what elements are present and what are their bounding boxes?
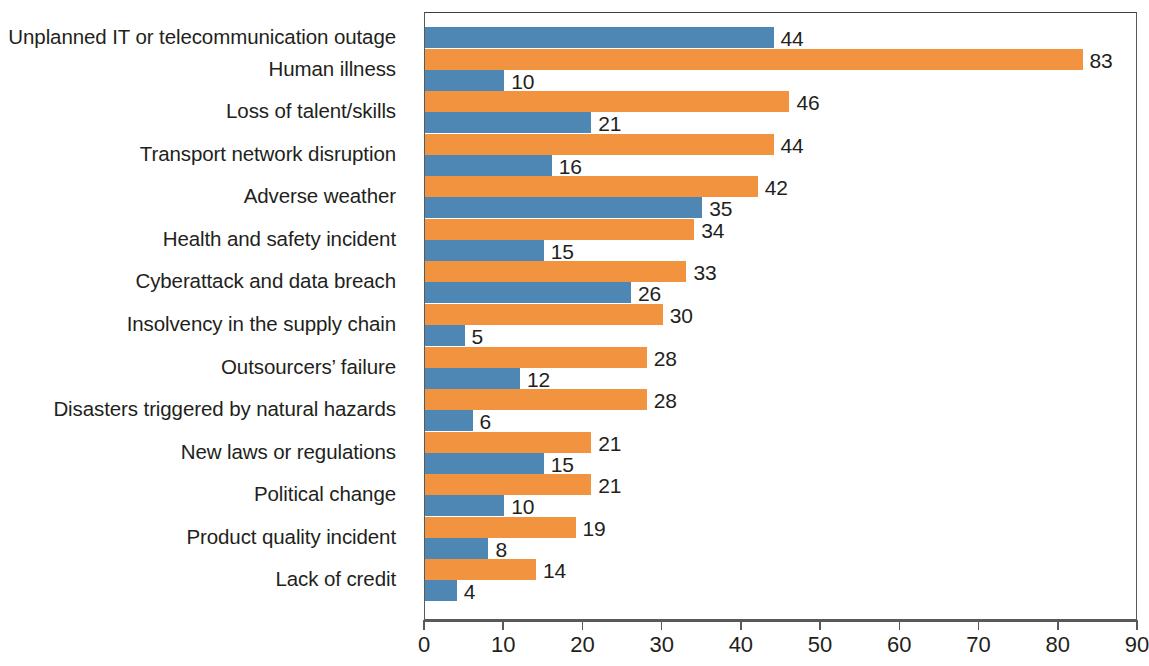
bar-value-label: 4 [464, 581, 475, 602]
category-label: Human illness [0, 59, 396, 80]
x-axis-tick [423, 620, 425, 630]
category-label: Adverse weather [0, 186, 396, 207]
bar-blue [425, 112, 591, 133]
bar-orange [425, 517, 576, 538]
x-axis-tick-label: 50 [808, 634, 832, 656]
x-axis-tick-label: 40 [729, 634, 753, 656]
category-label: Health and safety incident [0, 229, 396, 250]
x-axis-tick [978, 620, 980, 630]
category-label: Transport network disruption [0, 144, 396, 165]
x-axis-line [424, 620, 1137, 622]
category-label: Disasters triggered by natural hazards [0, 399, 396, 420]
category-label: Loss of talent/skills [0, 101, 396, 122]
bar-orange [425, 474, 591, 495]
bar-value-label: 14 [543, 560, 566, 581]
bar-value-label: 21 [598, 113, 621, 134]
bar-blue [425, 282, 631, 303]
bar-blue [425, 325, 465, 346]
bar-value-label: 83 [1090, 50, 1113, 71]
x-axis-tick [819, 620, 821, 630]
bar-value-label: 46 [796, 92, 819, 113]
bar-value-label: 8 [495, 539, 506, 560]
bar-blue [425, 240, 544, 261]
bar-blue [425, 70, 504, 91]
bar-value-label: 15 [551, 241, 574, 262]
x-axis: 0102030405060708090 [424, 620, 1137, 666]
bar-orange [425, 219, 694, 240]
bar-blue [425, 368, 520, 389]
x-axis-tick [899, 620, 901, 630]
bar-orange [425, 261, 686, 282]
x-axis-tick-label: 20 [570, 634, 594, 656]
x-axis-tick [740, 620, 742, 630]
bar-orange [425, 134, 774, 155]
bar-value-label: 34 [701, 220, 724, 241]
x-axis-tick-label: 10 [491, 634, 515, 656]
bar-value-label: 28 [654, 348, 677, 369]
bar-orange [425, 49, 1083, 70]
bar-blue [425, 410, 473, 431]
bar-blue [425, 27, 774, 48]
category-label: Cyberattack and data breach [0, 271, 396, 292]
bar-value-label: 26 [638, 283, 661, 304]
bar-value-label: 21 [598, 433, 621, 454]
bar-value-label: 44 [781, 28, 804, 49]
bar-orange [425, 347, 647, 368]
bar-value-label: 33 [693, 262, 716, 283]
bar-orange [425, 432, 591, 453]
bar-value-label: 19 [583, 518, 606, 539]
category-label: Product quality incident [0, 527, 396, 548]
bar-value-label: 10 [511, 71, 534, 92]
bar-value-label: 16 [559, 156, 582, 177]
bar-orange [425, 304, 663, 325]
category-label: Insolvency in the supply chain [0, 314, 396, 335]
bar-blue [425, 453, 544, 474]
x-axis-tick-label: 90 [1125, 634, 1149, 656]
bar-orange [425, 559, 536, 580]
category-label: Lack of credit [0, 569, 396, 590]
x-axis-tick [502, 620, 504, 630]
category-axis-labels: Unplanned IT or telecommunication outage… [0, 12, 410, 620]
bars-layer: 4483104621441642353415332630528122862115… [425, 13, 1136, 619]
bar-value-label: 21 [598, 475, 621, 496]
category-label: Outsourcers’ failure [0, 357, 396, 378]
category-label: Unplanned IT or telecommunication outage [0, 27, 396, 48]
bar-orange [425, 91, 789, 112]
x-axis-tick [661, 620, 663, 630]
bar-value-label: 10 [511, 496, 534, 517]
bar-value-label: 30 [670, 305, 693, 326]
bar-orange [425, 176, 758, 197]
bar-value-label: 5 [472, 326, 483, 347]
bar-value-label: 15 [551, 454, 574, 475]
category-label: New laws or regulations [0, 442, 396, 463]
category-label: Political change [0, 484, 396, 505]
x-axis-tick-label: 80 [1046, 634, 1070, 656]
bar-orange [425, 389, 647, 410]
x-axis-tick [1057, 620, 1059, 630]
x-axis-tick-label: 30 [649, 634, 673, 656]
plot-area: 4483104621441642353415332630528122862115… [424, 12, 1137, 620]
bar-value-label: 35 [709, 198, 732, 219]
x-axis-tick-label: 0 [418, 634, 430, 656]
x-axis-tick [1136, 620, 1138, 630]
bar-blue [425, 155, 552, 176]
bar-value-label: 28 [654, 390, 677, 411]
bar-blue [425, 495, 504, 516]
x-axis-tick-label: 60 [887, 634, 911, 656]
bar-blue [425, 538, 488, 559]
bar-value-label: 6 [480, 411, 491, 432]
x-axis-tick [582, 620, 584, 630]
bar-blue [425, 197, 702, 218]
bar-value-label: 12 [527, 369, 550, 390]
bar-blue [425, 580, 457, 601]
bar-value-label: 42 [765, 177, 788, 198]
x-axis-tick-label: 70 [966, 634, 990, 656]
bar-value-label: 44 [781, 135, 804, 156]
